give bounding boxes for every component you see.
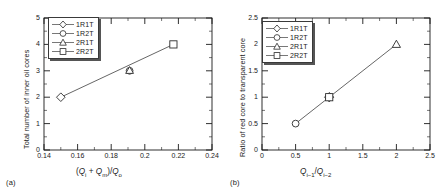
legend-label-1r1t: 1R1T [290,25,308,32]
x-axis-label-q3-sub: o [119,172,122,178]
x-tick-0: 0.14 [32,152,56,159]
legend-marker-diamond-icon [266,24,288,33]
legend-panel-a: 1R1T 1R2T 2R1T [48,17,99,59]
legend-label-2r1t: 2R1T [76,39,94,46]
legend-entry-2r1t: 2R1T [266,42,308,51]
legend-label-1r2t: 1R2T [290,34,308,41]
y-tick-4: 4 [28,40,40,47]
legend-marker-diamond-icon [52,20,74,29]
legend-panel-b: 1R1T 1R2T 2R1T [262,21,313,63]
panel-tag-a: (a) [6,178,16,187]
x-axis-label: (Qi + Qm)/Qo [76,167,122,178]
panel-tag-b: (b) [230,178,240,187]
x-tick-3: 1.5 [351,152,375,159]
y-tick-2: 1 [246,93,258,100]
legend-marker-square-icon [52,47,74,56]
marker-2r2t [170,41,177,48]
x-tick-3: 0.2 [133,152,157,159]
y-tick-5: 2.5 [238,14,258,21]
x-tick-5: 2.5 [418,152,442,159]
legend-entry-1r1t: 1R1T [266,24,308,33]
y-axis-label: Ratio of red core to transparent core [238,38,247,157]
legend-marker-circle-icon [266,33,288,42]
y-tick-5: 5 [28,14,40,21]
x-tick-2: 1 [317,152,341,159]
x-tick-0: 0 [250,152,274,159]
legend-marker-square-icon [266,51,288,60]
legend-label-2r2t: 2R2T [76,48,94,55]
legend-entry-2r2t: 2R2T [52,47,94,56]
y-tick-4: 2 [246,40,258,47]
legend-label-1r1t: 1R1T [76,21,94,28]
marker-2r2t [326,94,333,101]
panel-a: 0 1 2 3 4 5 0.14 0.16 0.18 0.2 0.22 0.24… [0,0,224,190]
x-axis-label-plus: + [86,167,95,176]
marker-1r2t [292,120,299,127]
y-axis-label: Total number of inner oil cores [22,50,31,149]
legend-entry-1r1t: 1R1T [52,20,94,29]
x-axis-label-q2-sub: i−2 [323,172,331,178]
legend-entry-1r2t: 1R2T [52,29,94,38]
legend-label-2r1t: 2R1T [290,43,308,50]
legend-marker-circle-icon [52,29,74,38]
x-tick-1: 0.16 [66,152,90,159]
x-tick-4: 2 [384,152,408,159]
legend-entry-2r2t: 2R2T [266,51,308,60]
legend-label-2r2t: 2R2T [290,52,308,59]
legend-entry-2r1t: 2R1T [52,38,94,47]
legend-entry-1r2t: 1R2T [266,33,308,42]
x-tick-2: 0.18 [99,152,123,159]
legend-marker-triangle-icon [52,38,74,47]
legend-label-1r2t: 1R2T [76,30,94,37]
legend-marker-triangle-icon [266,42,288,51]
x-tick-5: 0.24 [200,152,224,159]
x-axis-label-q1-sub: i−1 [306,172,314,178]
figure-container: 0 1 2 3 4 5 0.14 0.16 0.18 0.2 0.22 0.24… [0,0,448,190]
x-tick-4: 0.22 [166,152,190,159]
panel-b: 0 0.5 1 1.5 2 2.5 0 0.5 1 1.5 2 2.5 Rati… [224,0,448,190]
x-axis-label: Qi−1/Qi−2 [300,167,331,178]
x-tick-1: 0.5 [284,152,308,159]
